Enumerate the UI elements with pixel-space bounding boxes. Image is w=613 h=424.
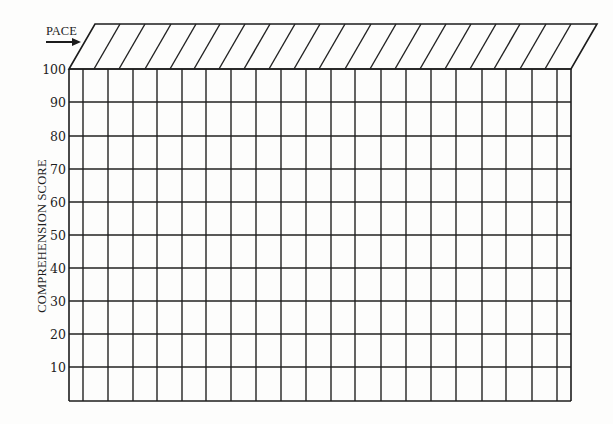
y-tick-label: 100 [42,62,66,77]
pace-label: PACE [46,24,77,38]
pace-arrow-icon [46,38,81,46]
pace-header-divider [520,24,546,69]
y-tick-label: 50 [50,228,66,243]
pace-header-divider [395,24,421,69]
pace-header-divider [269,24,295,69]
pace-header-divider [145,24,171,69]
pace-header-divider [420,24,446,69]
y-tick-label: 90 [50,95,66,110]
y-tick-label: 40 [50,261,66,276]
pace-header-divider [494,24,520,69]
score-grid [69,69,571,401]
y-tick-label: 10 [50,360,66,375]
y-tick-label: 30 [50,294,66,309]
pace-header-divider [244,24,270,69]
comprehension-pace-chart: 100908070605040302010 PACE COMPREHENSION… [0,0,613,424]
pace-header-divider [119,24,145,69]
y-axis-title: COMPREHENSION SCORE [35,159,49,313]
y-tick-label: 60 [50,195,66,210]
pace-header-divider [294,24,320,69]
pace-header-divider [445,24,471,69]
pace-header-divider [219,24,245,69]
y-tick-label: 20 [50,327,66,342]
pace-header-divider [345,24,371,69]
pace-header-divider [170,24,196,69]
pace-header-divider [194,24,220,69]
y-tick-label: 70 [50,162,66,177]
pace-header-divider [545,24,571,69]
pace-header-divider [94,24,120,69]
y-tick-label: 80 [50,129,66,144]
pace-header-divider [319,24,345,69]
pace-header-row [69,24,597,69]
pace-header-divider [470,24,496,69]
pace-header-divider [370,24,396,69]
